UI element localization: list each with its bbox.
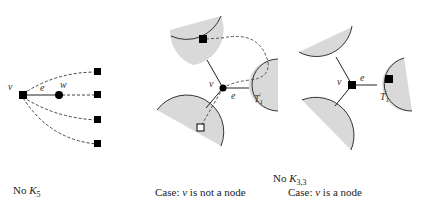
panel-not-node-diagram: v e T1′: [157, 16, 278, 146]
node-square: [94, 116, 101, 123]
region-top: [299, 27, 352, 57]
node-square: [94, 91, 101, 98]
caption-text: No: [273, 172, 286, 184]
edge: [206, 88, 223, 108]
node-w-circle: [55, 91, 63, 99]
caption-no-k33: No K3,3: [273, 172, 307, 187]
dashed-edge: [23, 98, 97, 144]
region-top: [170, 16, 224, 65]
label-e: e: [40, 82, 45, 93]
node-square-hollow: [197, 124, 204, 131]
caption-not-node: Case: v is not a node: [155, 186, 246, 198]
label-w: w: [60, 79, 67, 90]
caption-text: No: [13, 184, 26, 196]
caption-text: is a node: [323, 186, 362, 198]
caption-node: Case: v is a node: [288, 186, 362, 198]
label-e: e: [231, 90, 236, 101]
label-e: e: [360, 72, 365, 83]
node-square-filled: [199, 35, 207, 43]
node-square-filled: [385, 75, 393, 83]
caption-var: v: [182, 186, 187, 198]
node-v-square: [348, 81, 356, 89]
caption-no-k5: No K5: [13, 184, 41, 199]
caption-text: Case:: [155, 186, 179, 198]
node-v-square: [19, 91, 27, 99]
figure-canvas: v e w v e T1′: [0, 0, 423, 213]
label-v: v: [337, 76, 342, 87]
caption-text: Case:: [288, 186, 312, 198]
label-v: v: [8, 81, 13, 92]
caption-var: v: [315, 186, 320, 198]
label-v: v: [209, 78, 214, 89]
region-bottom: [157, 95, 224, 146]
caption-math: K: [29, 184, 36, 196]
panel-k5-diagram: v e w: [8, 68, 101, 147]
node-v-circle: [220, 85, 227, 92]
caption-math: K: [289, 172, 296, 184]
node-square: [94, 140, 101, 147]
caption-sub: 5: [37, 190, 41, 199]
region-bottom: [302, 97, 354, 150]
node-square: [94, 68, 101, 75]
panel-node-diagram: v e T1′: [299, 26, 412, 150]
dashed-edge: [23, 97, 97, 120]
caption-text: is not a node: [190, 186, 246, 198]
